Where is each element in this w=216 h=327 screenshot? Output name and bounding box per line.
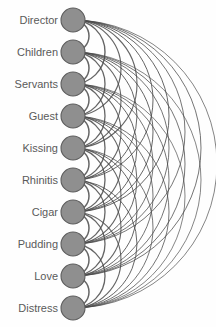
node-label: Rhinitis <box>22 174 59 186</box>
label-group: DirectorChildrenServantsGuestKissingRhin… <box>15 14 59 314</box>
arc-diagram-svg: DirectorChildrenServantsGuestKissingRhin… <box>0 0 216 327</box>
graph-node[interactable] <box>61 136 85 160</box>
node-label: Cigar <box>32 206 59 218</box>
graph-node[interactable] <box>61 200 85 224</box>
graph-node[interactable] <box>61 104 85 128</box>
arc-edge <box>73 148 153 308</box>
edge-group <box>73 20 216 308</box>
arc-edge <box>73 52 153 212</box>
graph-node[interactable] <box>61 72 85 96</box>
node-label: Servants <box>15 78 59 90</box>
graph-node[interactable] <box>61 40 85 64</box>
graph-node[interactable] <box>61 8 85 32</box>
graph-node[interactable] <box>61 232 85 256</box>
node-group <box>61 8 85 320</box>
node-label: Distress <box>18 302 58 314</box>
node-label: Director <box>19 14 58 26</box>
node-label: Kissing <box>23 142 58 154</box>
node-label: Love <box>34 270 58 282</box>
graph-node[interactable] <box>61 264 85 288</box>
graph-node[interactable] <box>61 168 85 192</box>
graph-node[interactable] <box>61 296 85 320</box>
arc-diagram-canvas: DirectorChildrenServantsGuestKissingRhin… <box>0 0 216 327</box>
arc-edge <box>73 84 153 244</box>
arc-edge <box>73 116 153 276</box>
node-label: Children <box>17 46 58 58</box>
node-label: Pudding <box>18 238 58 250</box>
node-label: Guest <box>29 110 58 122</box>
arc-edge <box>73 20 153 180</box>
